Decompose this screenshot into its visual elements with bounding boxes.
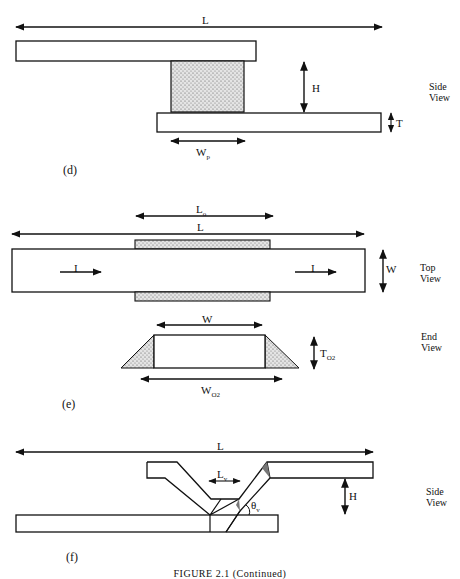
panel-label-f: (f) <box>66 550 78 565</box>
upper-conductor <box>16 41 256 61</box>
label-H-d: H <box>312 82 320 94</box>
top-view-line2: View <box>420 273 441 284</box>
theta-arc <box>246 505 250 515</box>
label-theta-sub: v <box>256 506 260 514</box>
side-view-f-line2: View <box>426 497 447 508</box>
label-Lo: Lo <box>196 203 206 220</box>
label-Lv-sub: v <box>224 475 228 483</box>
label-L-e: L <box>197 221 204 233</box>
label-Lv: Lv <box>217 468 227 485</box>
side-view-f-line1: Side <box>426 486 447 497</box>
panel-d <box>16 27 391 141</box>
label-I-left: I <box>74 262 78 274</box>
label-Wo2: WO2 <box>201 384 220 401</box>
end-view-label: End View <box>421 331 442 353</box>
label-T-d: T <box>396 117 403 129</box>
label-Wo2-main: W <box>201 384 211 396</box>
label-L-f: L <box>217 440 224 452</box>
side-view-label-d: Side View <box>429 81 450 103</box>
label-To2: TO2 <box>320 347 335 364</box>
panel-label-d: (d) <box>63 163 77 178</box>
side-view-line2: View <box>429 92 450 103</box>
label-Lo-main: L <box>196 203 203 215</box>
end-view-line1: End <box>421 331 442 342</box>
label-Wp-main: W <box>196 146 206 158</box>
label-To2-sub: O2 <box>327 354 336 362</box>
label-H-f: H <box>349 490 357 502</box>
label-L-d: L <box>202 14 209 26</box>
top-view-label: Top View <box>420 262 441 284</box>
end-view-line2: View <box>421 342 442 353</box>
label-Wp-d: Wp <box>196 146 210 163</box>
conductor-end-view <box>154 335 265 368</box>
top-view-line1: Top <box>420 262 441 273</box>
oxide-right-fillet <box>265 335 299 368</box>
oxide-strip-bottom <box>135 292 270 301</box>
oxide-left-fillet <box>121 335 154 368</box>
label-W-end: W <box>202 313 212 325</box>
lower-conductor-f <box>16 515 278 532</box>
label-I-right: I <box>311 262 315 274</box>
side-view-label-f: Side View <box>426 486 447 508</box>
label-W-side: W <box>386 263 396 275</box>
label-Wo2-sub: O2 <box>211 391 220 399</box>
label-To2-main: T <box>320 347 327 359</box>
label-Wp-sub: p <box>206 153 210 161</box>
figure-caption: FIGURE 2.1 (Continued) <box>0 568 460 579</box>
oxide-strip-top <box>135 240 270 249</box>
label-theta-v: θv <box>251 499 260 516</box>
lower-conductor <box>157 113 381 132</box>
side-view-line1: Side <box>429 81 450 92</box>
label-Lo-sub: o <box>203 210 207 218</box>
panel-f <box>16 452 373 532</box>
label-Lv-main: L <box>217 468 224 480</box>
post-dielectric <box>171 61 244 112</box>
panel-label-e: (e) <box>62 397 75 412</box>
